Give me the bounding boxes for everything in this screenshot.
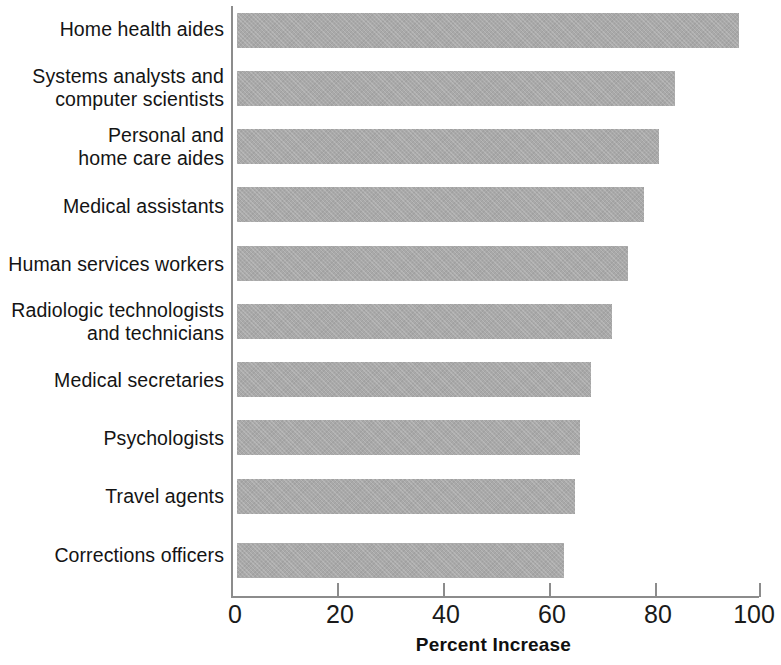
- bar-systems-analysts: [237, 71, 675, 106]
- tick-40: [443, 583, 445, 597]
- bar-corrections-officers: [237, 543, 564, 578]
- bar-personal-home-care-aides: [237, 129, 659, 164]
- bar-medical-secretaries: [237, 362, 591, 397]
- y-axis-line: [231, 6, 233, 597]
- category-label-corrections-officers: Corrections officers: [0, 544, 224, 567]
- tick-label-60: 60: [538, 600, 566, 629]
- tick-label-80: 80: [644, 600, 672, 629]
- category-label-systems-analysts: Systems analysts and computer scientists: [0, 65, 224, 111]
- category-label-medical-assistants: Medical assistants: [0, 195, 224, 218]
- x-axis-title-text: Percent Increase: [416, 634, 571, 656]
- tick-label-40: 40: [432, 600, 460, 629]
- x-axis-title: Percent Increase: [0, 634, 781, 656]
- bar-psychologists: [237, 420, 580, 455]
- category-label-human-services-workers: Human services workers: [0, 253, 224, 276]
- bar-radiologic-technologists: [237, 304, 612, 339]
- tick-100: [759, 583, 761, 597]
- category-axis-labels: Home health aides Systems analysts and c…: [0, 0, 224, 597]
- category-label-psychologists: Psychologists: [0, 427, 224, 450]
- tick-80: [655, 583, 657, 597]
- category-label-medical-secretaries: Medical secretaries: [0, 369, 224, 392]
- bar-travel-agents: [237, 479, 575, 514]
- tick-60: [549, 583, 551, 597]
- bar-chart: Home health aides Systems analysts and c…: [0, 0, 781, 665]
- category-label-home-health-aides: Home health aides: [0, 18, 224, 41]
- category-label-radiologic-technologists: Radiologic technologists and technicians: [0, 299, 224, 345]
- bar-home-health-aides: [237, 13, 739, 48]
- bar-medical-assistants: [237, 187, 644, 222]
- tick-label-0: 0: [228, 600, 242, 629]
- bar-human-services-workers: [237, 246, 628, 281]
- tick-20: [337, 583, 339, 597]
- category-label-travel-agents: Travel agents: [0, 485, 224, 508]
- tick-0: [231, 583, 233, 597]
- plot-area: [231, 0, 780, 597]
- category-label-personal-home-care-aides: Personal and home care aides: [0, 124, 224, 170]
- tick-label-100: 100: [733, 600, 775, 629]
- x-axis-line: [231, 596, 759, 598]
- tick-label-20: 20: [326, 600, 354, 629]
